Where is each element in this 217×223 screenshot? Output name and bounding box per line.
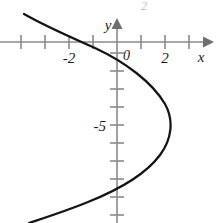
- x-axis-label: x: [197, 49, 205, 65]
- x-axis: [0, 35, 214, 49]
- x-tick-label-pos2: 2: [161, 50, 169, 66]
- cropped-superscript-text: 2: [141, 0, 147, 13]
- y-tick-label-neg5: -5: [94, 118, 107, 134]
- coordinate-plot: 2: [0, 0, 217, 223]
- y-axis-arrow-icon: [112, 18, 123, 29]
- x-tick-label-neg2: -2: [63, 50, 76, 66]
- y-axis-label: y: [103, 17, 112, 33]
- origin-label: 0: [123, 48, 130, 63]
- graph-figure: 2: [0, 0, 217, 223]
- x-axis-arrow-icon: [203, 37, 214, 48]
